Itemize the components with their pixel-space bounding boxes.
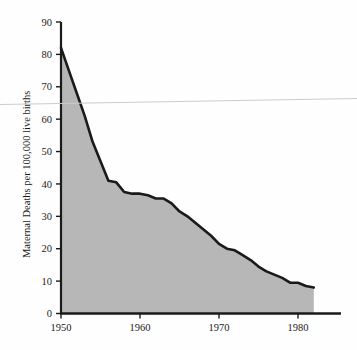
y-tick-label: 10: [42, 276, 53, 287]
x-tick-label: 1970: [209, 322, 230, 333]
x-tick-label: 1960: [130, 322, 151, 333]
y-tick-label: 60: [42, 114, 53, 125]
chart-page: 0102030405060708090 1950196019701980 Mat…: [0, 0, 357, 350]
series-area-fill: [61, 48, 314, 314]
x-axis-ticks: 1950196019701980: [51, 314, 309, 333]
y-tick-label: 80: [42, 49, 53, 60]
y-tick-label: 30: [42, 211, 53, 222]
y-tick-label: 0: [47, 308, 52, 319]
y-tick-label: 50: [42, 146, 53, 157]
x-tick-label: 1980: [288, 322, 309, 333]
y-axis-ticks: 0102030405060708090: [42, 17, 62, 320]
y-axis-title: Maternal Deaths per 100,000 live births: [21, 91, 32, 258]
y-tick-label: 40: [42, 179, 53, 190]
y-tick-label: 20: [42, 243, 53, 254]
x-tick-label: 1950: [51, 322, 72, 333]
maternal-mortality-area-chart: 0102030405060708090 1950196019701980 Mat…: [0, 0, 357, 350]
y-tick-label: 90: [42, 17, 53, 28]
y-tick-label: 70: [42, 81, 53, 92]
